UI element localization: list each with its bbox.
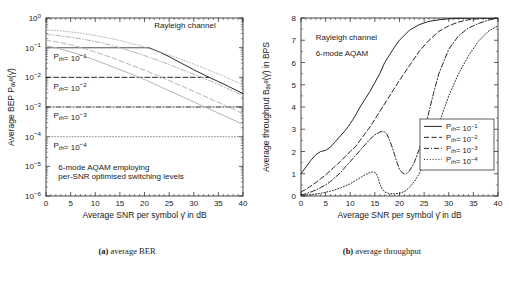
y-tick-label: 10−4 bbox=[25, 130, 42, 141]
y-tick-label: 0 bbox=[292, 192, 297, 201]
x-tick-label: 5 bbox=[323, 199, 328, 208]
x-tick-label: 20 bbox=[140, 199, 149, 208]
y-tick-label: 1 bbox=[292, 170, 297, 179]
caption-tag-a: (a) bbox=[98, 246, 108, 256]
chart-annotation: Rayleigh channel bbox=[154, 21, 216, 30]
chart-annotation: 6-mode AQAM bbox=[316, 49, 369, 58]
chart-average-ber: 051015202530354010010−110−210−310−410−51… bbox=[0, 0, 254, 240]
x-tick-label: 0 bbox=[299, 199, 304, 208]
x-axis-label: Average SNR per symbol γ̄ in dB bbox=[82, 210, 206, 220]
y-tick-label: 7 bbox=[292, 36, 297, 45]
chart-annotation: Pth= 10−1 bbox=[53, 52, 87, 63]
chart-annotation: 6-mode AQAM employing bbox=[58, 163, 149, 172]
y-tick-label: 6 bbox=[292, 59, 297, 68]
x-tick-label: 5 bbox=[68, 199, 73, 208]
x-tick-label: 10 bbox=[346, 199, 355, 208]
x-tick-label: 40 bbox=[494, 199, 503, 208]
y-tick-label: 10−3 bbox=[25, 101, 42, 112]
y-tick-label: 10−6 bbox=[25, 190, 42, 201]
y-tick-label: 8 bbox=[292, 14, 297, 23]
x-axis-label: Average SNR per symbol γ̄ in dB bbox=[337, 210, 461, 220]
chart-annotation: Pth= 10−3 bbox=[53, 111, 87, 122]
x-tick-label: 15 bbox=[370, 199, 379, 208]
chart-annotation: per-SNR optimised switching levels bbox=[58, 172, 183, 181]
caption-text-b: average throughput bbox=[353, 246, 421, 256]
caption-panel-b: (b) average throughput bbox=[255, 246, 509, 256]
y-tick-label: 4 bbox=[292, 103, 297, 112]
y-tick-label: 5 bbox=[292, 81, 297, 90]
y-tick-label: 10−5 bbox=[25, 160, 42, 171]
y-tick-label: 10−2 bbox=[25, 71, 42, 82]
y-axis-label: Average throughput Bₐᵥᵍ(γ̄) in BPS bbox=[261, 42, 271, 172]
x-tick-label: 30 bbox=[444, 199, 453, 208]
x-tick-label: 35 bbox=[214, 199, 223, 208]
y-axis-label: Average BEP Pₐᵥᵍ(γ̄) bbox=[6, 68, 16, 146]
y-tick-label: 100 bbox=[29, 12, 42, 23]
y-tick-label: 3 bbox=[292, 125, 297, 134]
caption-panel-a: (a) average BER bbox=[0, 246, 254, 256]
x-tick-label: 25 bbox=[165, 199, 174, 208]
x-tick-label: 0 bbox=[44, 199, 49, 208]
x-tick-label: 15 bbox=[115, 199, 124, 208]
x-tick-label: 20 bbox=[395, 199, 404, 208]
chart-annotation: Rayleigh channel bbox=[316, 33, 378, 42]
chart-annotation: Pth= 10−2 bbox=[53, 81, 87, 92]
panel-average-throughput: 0510152025303540012345678Average SNR per… bbox=[255, 0, 509, 281]
caption-tag-b: (b) bbox=[343, 246, 353, 256]
caption-text-a: average BER bbox=[108, 246, 155, 256]
chart-annotation: Pth= 10−4 bbox=[53, 141, 87, 152]
x-tick-label: 35 bbox=[469, 199, 478, 208]
y-tick-label: 2 bbox=[292, 148, 297, 157]
x-tick-label: 40 bbox=[239, 199, 248, 208]
chart-average-throughput: 0510152025303540012345678Average SNR per… bbox=[255, 0, 509, 240]
x-tick-label: 10 bbox=[91, 199, 100, 208]
figure-container: 051015202530354010010−110−210−310−410−51… bbox=[0, 0, 509, 281]
x-tick-label: 25 bbox=[420, 199, 429, 208]
y-tick-label: 10−1 bbox=[25, 41, 42, 52]
panel-average-ber: 051015202530354010010−110−210−310−410−51… bbox=[0, 0, 254, 281]
x-tick-label: 30 bbox=[189, 199, 198, 208]
